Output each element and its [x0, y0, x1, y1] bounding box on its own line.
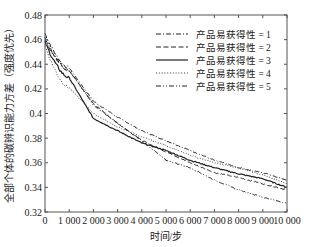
series-line-4: [45, 46, 287, 183]
x-tick-label: 7 000: [203, 215, 226, 226]
x-tick-label: 8 000: [227, 215, 250, 226]
legend-label-4: 产品易获得性 = 4: [196, 68, 271, 79]
legend: 产品易获得性 = 1产品易获得性 = 2产品易获得性 = 3产品易获得性 = 4…: [156, 29, 271, 92]
x-tick-label: 3 000: [106, 215, 129, 226]
x-tick-label: 2 000: [82, 215, 105, 226]
x-tick-label: 6 000: [179, 215, 202, 226]
x-axis-title: 时间/步: [150, 230, 183, 242]
x-tick-label: 4 000: [131, 215, 154, 226]
y-tick-label: 0.32: [25, 207, 43, 218]
y-tick-label: 0.44: [25, 59, 43, 70]
y-tick-label: 0.34: [25, 182, 43, 193]
y-tick-label: 0.42: [25, 83, 43, 94]
x-tick-label: 10 000: [273, 215, 301, 226]
legend-label-1: 产品易获得性 = 1: [196, 29, 271, 40]
x-tick-label: 9 000: [252, 215, 275, 226]
y-tick-label: 0.38: [25, 133, 43, 144]
y-tick-label: 0.48: [25, 10, 43, 21]
y-tick-label: 0.36: [25, 157, 43, 168]
x-tick-label: 1 000: [58, 215, 81, 226]
x-tick-label: 5 000: [155, 215, 178, 226]
x-tick-label: 0: [43, 215, 48, 226]
line-chart: 01 0002 0003 0004 0005 0006 0007 0008 00…: [0, 0, 315, 247]
legend-label-3: 产品易获得性 = 3: [196, 55, 271, 66]
y-axis-title: 全部个体的碳辨识能力方差（强度优先）: [3, 23, 15, 203]
legend-label-2: 产品易获得性 = 2: [196, 42, 271, 53]
y-tick-label: 0.46: [25, 34, 43, 45]
y-tick-label: 0.4: [30, 108, 43, 119]
legend-label-5: 产品易获得性 = 5: [196, 81, 271, 92]
